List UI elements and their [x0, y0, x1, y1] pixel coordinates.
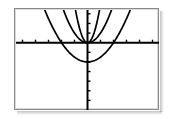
frame-shadow-bottom [17, 111, 162, 115]
graphing-calculator-screen [14, 8, 159, 110]
screenshot-root [0, 0, 173, 119]
parabola-plot [16, 10, 159, 110]
frame-shadow-right [160, 11, 164, 112]
